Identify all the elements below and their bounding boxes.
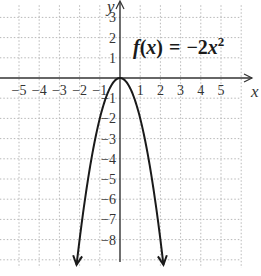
y-tick-label: 2 [109, 31, 116, 46]
eq-variable: x [145, 36, 156, 58]
y-tick-label: −3 [101, 132, 116, 147]
eq-equals: = [169, 36, 180, 58]
y-tick-label: 1 [109, 51, 116, 66]
function-equation-label: f(x)=−2x2 [133, 34, 224, 59]
x-tick-label: −2 [72, 83, 87, 98]
y-tick-label: −8 [101, 233, 116, 248]
x-tick-label: −3 [52, 83, 67, 98]
x-tick-label: −5 [12, 83, 27, 98]
eq-rhs-variable: x [207, 36, 218, 58]
y-tick-label: −7 [101, 212, 116, 227]
x-tick-label: 3 [177, 83, 184, 98]
x-axis-label: x [250, 82, 259, 101]
y-axis-label: y [105, 0, 115, 16]
parabola-graph: −5−4−3−2−112345321−1−2−3−4−5−6−7−8 y x f… [0, 0, 261, 276]
x-tick-label: 4 [197, 83, 204, 98]
y-tick-label: −4 [101, 152, 116, 167]
eq-coefficient: −2 [186, 36, 207, 58]
y-tick-label: −6 [101, 192, 116, 207]
x-tick-label: 2 [157, 83, 164, 98]
x-tick-label: −4 [32, 83, 47, 98]
y-tick-label: −5 [101, 172, 116, 187]
y-tick-label: −2 [101, 111, 116, 126]
x-tick-label: 1 [137, 83, 144, 98]
eq-close-paren: ) [156, 36, 163, 59]
eq-exponent: 2 [218, 34, 225, 49]
x-tick-label: 5 [218, 83, 225, 98]
